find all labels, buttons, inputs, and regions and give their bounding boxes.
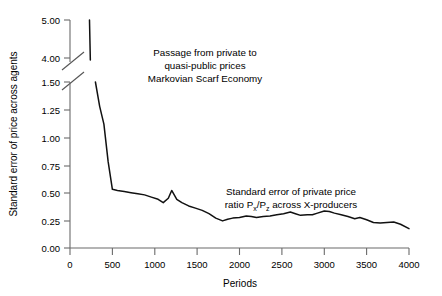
svg-text:quasi-public prices: quasi-public prices [164, 60, 245, 71]
xtick-label-0: 0 [67, 259, 72, 270]
svg-text:Passage from private to: Passage from private to [153, 47, 257, 58]
xtick-label-3000: 3000 [314, 259, 335, 270]
xtick-label-2500: 2500 [271, 259, 292, 270]
ytick-label-000: 0.00 [42, 243, 61, 254]
ytick-label-150: 1.50 [42, 77, 61, 88]
x-axis-title: Periods [223, 278, 257, 289]
chart-figure: Standard error of price across agents 5.… [0, 0, 442, 296]
y-axis-title: Standard error of price across agents [8, 51, 19, 216]
axis-break-slash-lower [62, 72, 84, 90]
xtick-label-2000: 2000 [229, 259, 250, 270]
ytick-label-025: 0.25 [42, 216, 61, 227]
series-upper-segment [89, 20, 90, 60]
private-price-annotation: Standard error of private price ratio Px… [225, 186, 357, 212]
upper-ytick-label-400: 4.00 [42, 53, 61, 64]
ytick-label-125: 1.25 [42, 105, 61, 116]
xtick-label-1000: 1000 [144, 259, 165, 270]
svg-text:Standard error of private pric: Standard error of private price [226, 186, 357, 197]
xtick-label-4000: 4000 [398, 259, 419, 270]
xtick-label-1500: 1500 [187, 259, 208, 270]
xtick-label-3500: 3500 [356, 259, 377, 270]
svg-text:Markovian Scarf Economy: Markovian Scarf Economy [148, 73, 262, 84]
upper-ytick-label-500: 5.00 [42, 15, 61, 26]
x-tick-group [70, 248, 409, 255]
passage-annotation: Passage from private to quasi-public pri… [148, 47, 262, 84]
ytick-label-075: 0.75 [42, 161, 61, 172]
ytick-label-100: 1.00 [42, 133, 61, 144]
axis-break-slash-upper [62, 52, 84, 70]
private-price-ratio-line: ratio Px/Pz across X-producers [225, 199, 357, 212]
xtick-label-500: 500 [104, 259, 120, 270]
broken-axis-line-chart: Standard error of price across agents 5.… [0, 0, 442, 296]
ytick-label-050: 0.50 [42, 188, 61, 199]
